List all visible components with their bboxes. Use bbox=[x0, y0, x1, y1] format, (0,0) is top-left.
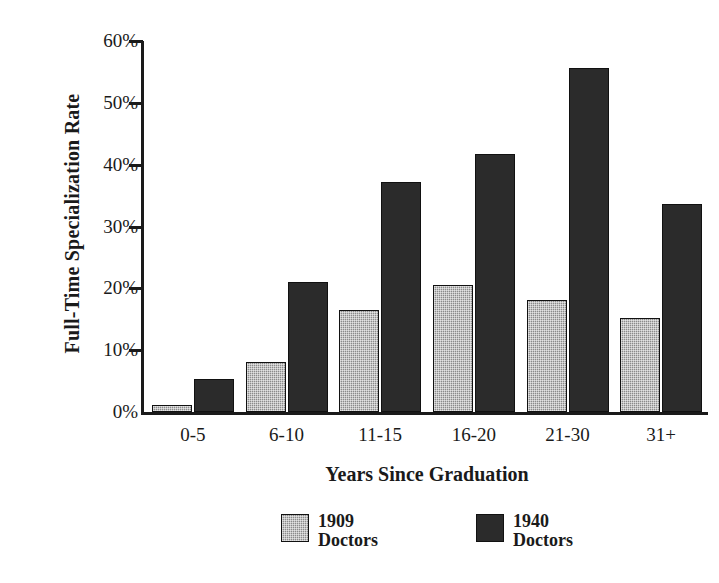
x-axis-tick-label: 6-10 bbox=[240, 424, 334, 446]
y-axis-tick-labels: 0%10%20%30%40%50%60% bbox=[28, 0, 138, 583]
y-axis-tick-label: 20% bbox=[28, 277, 138, 299]
y-axis-tick-mark bbox=[129, 164, 143, 167]
bar-chart: Full-Time Specialization Rate 0%10%20%30… bbox=[0, 0, 719, 583]
bar[interactable] bbox=[662, 204, 702, 412]
bar[interactable] bbox=[475, 154, 515, 412]
bar-group bbox=[427, 41, 521, 412]
x-axis-line bbox=[141, 412, 708, 415]
legend-label: 1909 Doctors bbox=[318, 512, 378, 550]
legend-label: 1940 Doctors bbox=[513, 512, 573, 550]
bar[interactable] bbox=[288, 282, 328, 412]
legend-swatch bbox=[281, 514, 309, 542]
bar[interactable] bbox=[620, 318, 660, 412]
bar[interactable] bbox=[381, 182, 421, 412]
y-axis-tick-mark bbox=[129, 102, 143, 105]
bar[interactable] bbox=[152, 405, 192, 412]
y-axis-tick-label: 0% bbox=[28, 401, 138, 423]
bar[interactable] bbox=[527, 300, 567, 412]
bar[interactable] bbox=[339, 310, 379, 412]
legend-item[interactable]: 1909 Doctors bbox=[281, 512, 378, 550]
bar-group bbox=[614, 41, 708, 412]
y-axis-tick-mark bbox=[129, 287, 143, 290]
x-axis-title: Years Since Graduation bbox=[146, 463, 708, 486]
y-axis-tick-label: 30% bbox=[28, 216, 138, 238]
x-axis-tick-label: 31+ bbox=[614, 424, 708, 446]
x-axis-tick-label: 11-15 bbox=[333, 424, 427, 446]
legend-item[interactable]: 1940 Doctors bbox=[476, 512, 573, 550]
y-axis-tick-mark bbox=[129, 40, 143, 43]
bar-group bbox=[240, 41, 334, 412]
bar-group bbox=[521, 41, 615, 412]
y-axis-tick-mark bbox=[129, 349, 143, 352]
legend-swatch bbox=[476, 514, 504, 542]
bars-layer bbox=[146, 41, 708, 412]
x-axis-tick-label: 16-20 bbox=[427, 424, 521, 446]
chart-legend: 1909 Doctors1940 Doctors bbox=[146, 512, 708, 550]
y-axis-tick-label: 50% bbox=[28, 92, 138, 114]
bar-group bbox=[333, 41, 427, 412]
bar[interactable] bbox=[433, 285, 473, 412]
y-axis-tick-label: 40% bbox=[28, 154, 138, 176]
x-axis-tick-labels: 0-56-1011-1516-2021-3031+ bbox=[146, 424, 708, 452]
bar[interactable] bbox=[246, 362, 286, 412]
y-axis-tick-label: 60% bbox=[28, 30, 138, 52]
y-axis-tick-mark bbox=[129, 226, 143, 229]
x-axis-tick-label: 0-5 bbox=[146, 424, 240, 446]
bar[interactable] bbox=[194, 379, 234, 412]
bar[interactable] bbox=[569, 68, 609, 412]
bar-group bbox=[146, 41, 240, 412]
y-axis-tick-label: 10% bbox=[28, 339, 138, 361]
plot-area bbox=[146, 41, 708, 412]
x-axis-tick-label: 21-30 bbox=[521, 424, 615, 446]
